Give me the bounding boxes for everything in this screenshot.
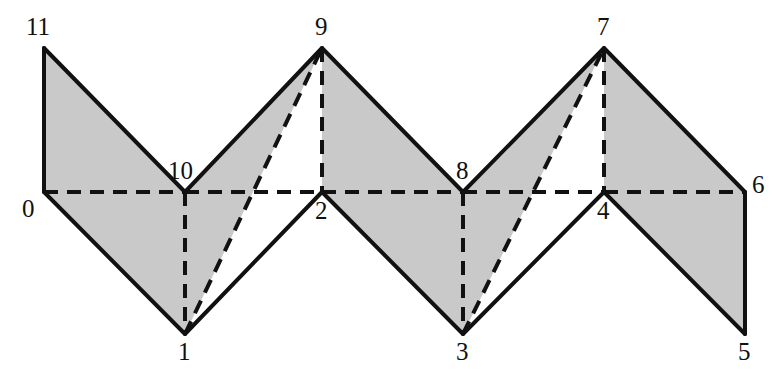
vertex-label-1: 1 xyxy=(178,339,191,364)
vertex-label-11: 11 xyxy=(26,14,50,39)
vertex-label-0: 0 xyxy=(22,196,35,221)
vertex-label-2: 2 xyxy=(315,198,328,223)
vertex-label-3: 3 xyxy=(456,339,469,364)
vertex-label-6: 6 xyxy=(752,172,765,197)
vertex-label-4: 4 xyxy=(597,198,610,223)
vertex-label-7: 7 xyxy=(597,14,610,39)
vertex-label-5: 5 xyxy=(738,339,751,364)
vertex-label-8: 8 xyxy=(456,158,469,183)
triangle-strip-diagram xyxy=(0,0,775,373)
vertex-label-10: 10 xyxy=(168,158,193,183)
vertex-label-9: 9 xyxy=(315,14,328,39)
figure-canvas: 01234567891011 xyxy=(0,0,775,373)
